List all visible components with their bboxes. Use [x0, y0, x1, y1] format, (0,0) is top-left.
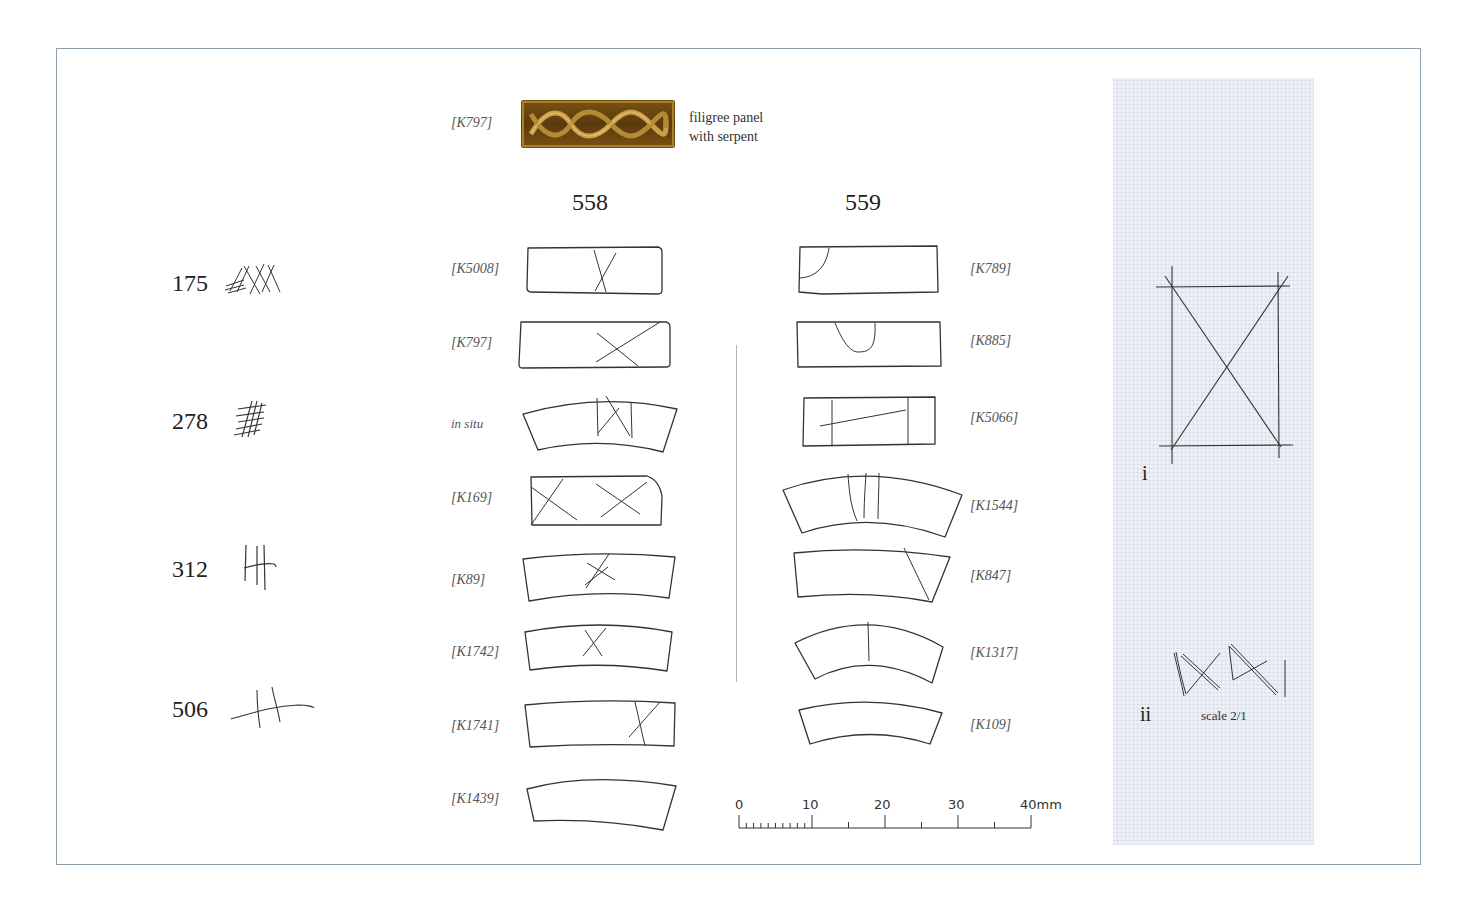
scale-note: scale 2/1	[1201, 708, 1247, 724]
label-i: i	[1142, 462, 1148, 485]
label-ii: ii	[1140, 703, 1151, 726]
detail-ii-marks	[1174, 644, 1285, 697]
detail-panel-drawings	[0, 0, 1481, 903]
detail-i-box-cross	[1156, 266, 1293, 464]
